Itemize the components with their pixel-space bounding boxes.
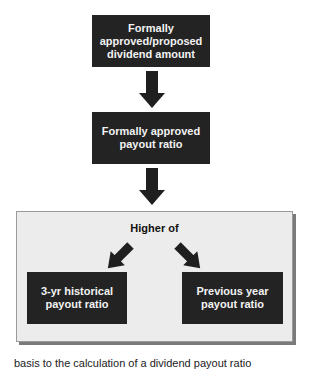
dividend-amount-label: Formally approved/proposed dividend amou… xyxy=(100,22,203,61)
down-arrow-icon xyxy=(139,168,165,205)
down-arrow-icon xyxy=(139,71,165,108)
historical-payout-ratio-box: 3-yr historical payout ratio xyxy=(27,272,127,324)
previous-year-payout-ratio-label: Previous year payout ratio xyxy=(196,285,268,311)
dividend-amount-box: Formally approved/proposed dividend amou… xyxy=(92,15,210,67)
approved-payout-ratio-box: Formally approved payout ratio xyxy=(92,112,210,164)
figure-caption: basis to the calculation of a dividend p… xyxy=(14,357,304,369)
previous-year-payout-ratio-box: Previous year payout ratio xyxy=(182,272,283,324)
higher-of-label: Higher of xyxy=(16,222,293,234)
historical-payout-ratio-label: 3-yr historical payout ratio xyxy=(41,285,113,311)
approved-payout-ratio-label: Formally approved payout ratio xyxy=(102,125,200,151)
